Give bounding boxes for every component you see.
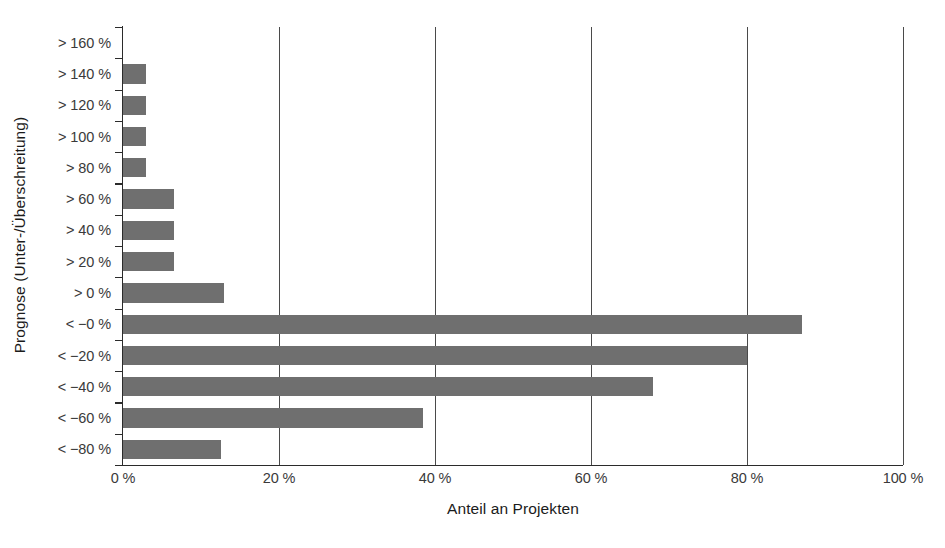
y-tick-mark [115, 434, 123, 435]
y-tick-label: > 60 % [28, 191, 111, 207]
y-tick-mark [115, 58, 123, 59]
gridline [435, 27, 436, 465]
y-tick-mark [115, 465, 123, 466]
gridline [747, 27, 748, 465]
y-tick-label: > 160 % [28, 35, 111, 51]
bar [123, 440, 221, 459]
bar [123, 158, 146, 177]
y-tick-label: > 20 % [28, 254, 111, 270]
y-tick-mark [115, 277, 123, 278]
y-axis-title-text: Prognose (Unter-/Überschreitung) [11, 117, 29, 354]
y-tick-label: < −80 % [28, 441, 111, 457]
x-tick-label: 20 % [263, 470, 296, 486]
y-tick-label: < −40 % [28, 379, 111, 395]
y-tick-label: > 40 % [28, 222, 111, 238]
bar [123, 127, 146, 146]
bar [123, 252, 174, 271]
x-tick-label: 0 % [111, 470, 136, 486]
plot-area [123, 27, 903, 465]
gridline [903, 27, 904, 465]
y-tick-mark [115, 27, 123, 28]
x-tick-label: 60 % [575, 470, 608, 486]
bar [123, 64, 146, 83]
bar [123, 346, 747, 365]
y-tick-label: < −0 % [28, 316, 111, 332]
y-tick-mark [115, 340, 123, 341]
bar [123, 377, 653, 396]
y-tick-label: > 100 % [28, 129, 111, 145]
y-tick-mark [115, 215, 123, 216]
gridline [591, 27, 592, 465]
y-tick-mark [115, 152, 123, 153]
x-tick-label: 80 % [731, 470, 764, 486]
y-axis-tick-labels: > 160 %> 140 %> 120 %> 100 %> 80 %> 60 %… [34, 27, 117, 465]
bar [123, 408, 423, 427]
x-axis-title: Anteil an Projekten [123, 500, 903, 518]
y-tick-label: > 120 % [28, 97, 111, 113]
x-tick-label: 40 % [419, 470, 452, 486]
y-tick-mark [115, 402, 123, 403]
y-tick-label: > 80 % [28, 160, 111, 176]
x-axis-line [122, 465, 903, 466]
y-tick-mark [115, 121, 123, 122]
bar [123, 189, 174, 208]
bar [123, 283, 224, 302]
bar [123, 96, 146, 115]
y-tick-label: > 0 % [28, 285, 111, 301]
y-tick-label: < −60 % [28, 410, 111, 426]
chart-figure: Prognose (Unter-/Überschreitung) > 160 %… [0, 0, 945, 548]
y-tick-mark [115, 309, 123, 310]
y-tick-label: < −20 % [28, 348, 111, 364]
y-tick-mark [115, 246, 123, 247]
y-tick-mark [115, 371, 123, 372]
x-axis-tick-labels: 0 %20 %40 %60 %80 %100 % [123, 470, 903, 494]
x-tick-label: 100 % [883, 470, 924, 486]
y-tick-mark [115, 90, 123, 91]
y-tick-label: > 140 % [28, 66, 111, 82]
y-tick-mark [115, 183, 123, 184]
gridline [279, 27, 280, 465]
bar [123, 315, 802, 334]
bar [123, 221, 174, 240]
